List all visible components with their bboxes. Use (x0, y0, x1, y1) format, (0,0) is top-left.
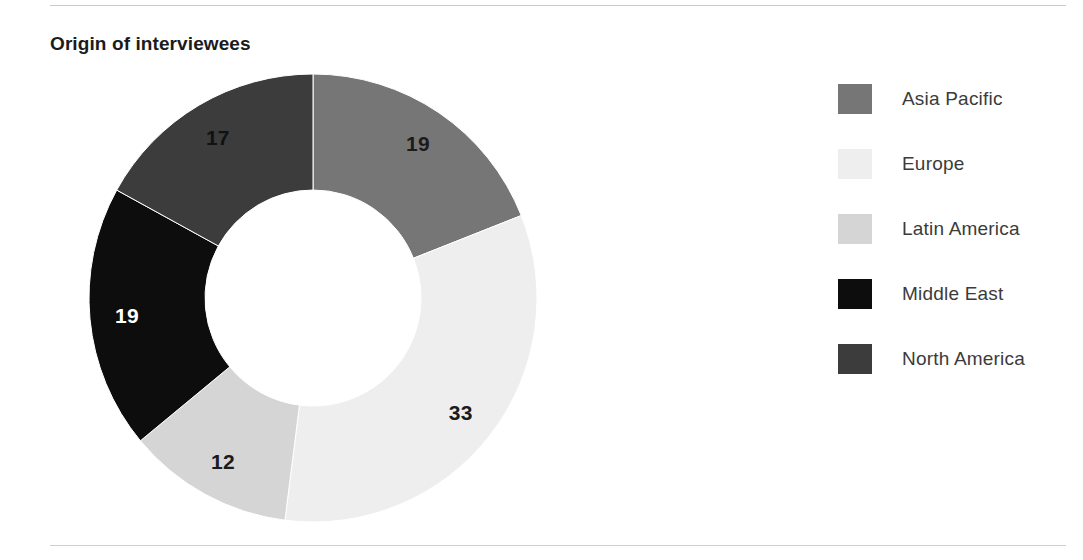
top-divider (50, 5, 1066, 6)
bottom-divider (50, 545, 1066, 546)
donut-slice-value: 33 (449, 401, 473, 424)
donut-slice-value: 19 (115, 304, 139, 327)
legend-item-europe[interactable]: Europe (838, 131, 1078, 196)
legend-item-label: Asia Pacific (902, 88, 1003, 110)
donut-slice-value: 19 (406, 132, 430, 155)
legend-item-label: Middle East (902, 283, 1003, 305)
legend-item-label: Latin America (902, 218, 1020, 240)
donut-slice[interactable] (285, 216, 537, 522)
legend-swatch-icon (838, 84, 872, 114)
page-title: Origin of interviewees (50, 33, 251, 55)
donut-slices (89, 74, 537, 522)
legend-item-asia-pacific[interactable]: Asia Pacific (838, 66, 1078, 131)
legend-item-label: North America (902, 348, 1025, 370)
legend-item-middle-east[interactable]: Middle East (838, 261, 1078, 326)
donut-slice-value: 12 (211, 450, 235, 473)
donut-slice-value: 17 (206, 126, 230, 149)
legend-item-north-america[interactable]: North America (838, 326, 1078, 391)
legend-swatch-icon (838, 149, 872, 179)
legend-swatch-icon (838, 344, 872, 374)
legend-swatch-icon (838, 279, 872, 309)
donut-chart-svg: 1933121917 (89, 74, 537, 522)
legend-item-latin-america[interactable]: Latin America (838, 196, 1078, 261)
donut-chart: 1933121917 (89, 74, 537, 522)
legend-item-label: Europe (902, 153, 964, 175)
legend-swatch-icon (838, 214, 872, 244)
chart-legend: Asia Pacific Europe Latin America Middle… (838, 66, 1078, 391)
